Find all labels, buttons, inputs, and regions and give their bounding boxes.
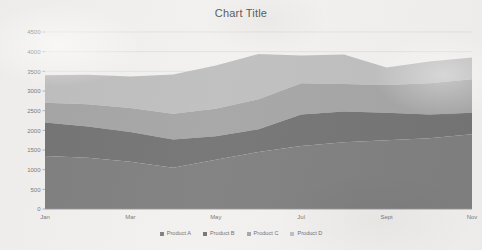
- x-tick-label: Nov: [467, 214, 478, 220]
- y-tick-label: 0: [37, 206, 41, 212]
- stacked-area-chart: Chart Title 0500100015002000250030003500…: [0, 0, 482, 250]
- y-axis-tick-labels: 050010001500200025003000350040004500: [27, 29, 41, 212]
- legend-item-product-d[interactable]: Product D: [290, 231, 322, 237]
- x-tick-label: Jul: [297, 214, 305, 220]
- legend-label: Product C: [254, 231, 279, 237]
- legend-label: Product B: [210, 231, 235, 237]
- legend-label: Product A: [167, 231, 191, 237]
- y-tick-label: 1500: [27, 147, 41, 153]
- legend-item-product-b[interactable]: Product B: [203, 231, 235, 237]
- x-tick-label: Jan: [40, 214, 50, 220]
- chart-legend: Product AProduct BProduct CProduct D: [0, 231, 482, 237]
- legend-swatch-icon: [247, 232, 251, 236]
- y-tick-label: 1000: [27, 167, 41, 173]
- x-axis-tick-labels: JanMarMayJulSeptNov: [40, 214, 477, 220]
- plot-canvas: 050010001500200025003000350040004500 Jan…: [0, 0, 482, 250]
- y-tick-label: 4000: [27, 49, 41, 55]
- legend-item-product-c[interactable]: Product C: [247, 231, 279, 237]
- legend-label: Product D: [297, 231, 322, 237]
- legend-swatch-icon: [203, 232, 207, 236]
- area-series-group: [45, 54, 472, 209]
- y-tick-label: 2000: [27, 128, 41, 134]
- y-tick-label: 3500: [27, 69, 41, 75]
- y-tick-label: 3000: [27, 88, 41, 94]
- legend-swatch-icon: [160, 232, 164, 236]
- x-tick-label: May: [210, 214, 221, 220]
- y-tick-label: 4500: [27, 29, 41, 35]
- x-tick-label: Mar: [125, 214, 135, 220]
- legend-item-product-a[interactable]: Product A: [160, 231, 191, 237]
- x-tick-label: Sept: [380, 214, 393, 220]
- y-tick-label: 500: [30, 187, 41, 193]
- legend-swatch-icon: [290, 232, 294, 236]
- y-tick-label: 2500: [27, 108, 41, 114]
